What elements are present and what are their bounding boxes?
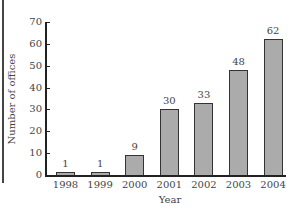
y-tick — [45, 175, 50, 176]
bar-value-label: 62 — [258, 26, 288, 36]
bar-chart: Number of offices Year 010203040506070 1… — [0, 0, 300, 217]
x-tick-label: 1998 — [48, 180, 84, 190]
y-tick-label: 30 — [20, 104, 42, 114]
bar-1998 — [56, 172, 75, 175]
y-tick — [45, 131, 50, 132]
bar-value-label: 9 — [120, 142, 150, 152]
y-tick — [45, 44, 50, 45]
y-tick-label: 10 — [20, 148, 42, 158]
x-tick-label: 1999 — [82, 180, 118, 190]
bar-2002 — [194, 103, 213, 175]
y-axis-label: Number of offices — [6, 54, 17, 145]
bar-value-label: 33 — [189, 90, 219, 100]
y-tick-label: 60 — [20, 39, 42, 49]
bar-2003 — [229, 70, 248, 175]
y-tick-label: 70 — [20, 17, 42, 27]
x-tick-label: 2001 — [151, 180, 187, 190]
y-axis — [45, 22, 47, 175]
bar-1999 — [91, 172, 110, 175]
y-tick — [45, 153, 50, 154]
y-tick-label: 0 — [20, 170, 42, 180]
y-tick-label: 20 — [20, 126, 42, 136]
bar-2001 — [160, 109, 179, 175]
bar-2000 — [125, 155, 144, 175]
x-tick-label: 2002 — [186, 180, 222, 190]
y-tick — [45, 22, 50, 23]
bar-value-label: 30 — [154, 96, 184, 106]
bar-value-label: 1 — [85, 159, 115, 169]
y-tick-label: 50 — [20, 61, 42, 71]
x-tick-label: 2003 — [221, 180, 257, 190]
y-tick-label: 40 — [20, 83, 42, 93]
bar-2004 — [264, 39, 283, 175]
x-axis — [45, 175, 286, 177]
y-tick — [45, 66, 50, 67]
bar-value-label: 1 — [51, 159, 81, 169]
x-tick-label: 2004 — [255, 180, 291, 190]
y-tick — [45, 109, 50, 110]
x-tick-label: 2000 — [117, 180, 153, 190]
bar-value-label: 48 — [224, 57, 254, 67]
y-tick — [45, 88, 50, 89]
x-axis-label: Year — [150, 194, 190, 205]
